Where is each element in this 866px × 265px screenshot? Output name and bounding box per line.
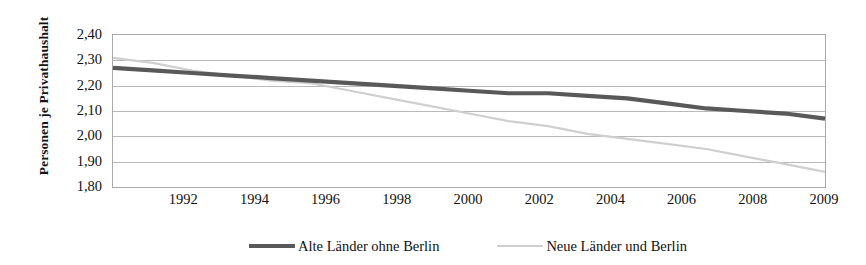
legend-color-swatch: [249, 244, 295, 248]
x-axis-tick-label: 2008: [738, 191, 767, 208]
y-axis-tick-labels: 2,402,302,202,102,001,901,80: [54, 34, 106, 186]
x-axis-tick-label: 2009: [810, 191, 839, 208]
x-axis-tick-label: 2000: [454, 191, 483, 208]
y-axis-tick-label: 1,90: [50, 154, 102, 169]
y-axis-tick-label: 1,80: [50, 179, 102, 194]
y-axis-tick-label: 2,10: [50, 103, 102, 118]
y-axis-tick-label: 2,20: [50, 78, 102, 93]
series-lines: [113, 35, 825, 187]
chart-screenshot: Personen je Privathaushalt 2,402,302,202…: [0, 0, 866, 265]
legend-item[interactable]: Alte Länder ohne Berlin: [249, 239, 439, 254]
legend-label: Alte Länder ohne Berlin: [298, 239, 439, 254]
x-axis-tick-labels: 1992199419961998200020022004200620082009: [112, 191, 824, 215]
x-axis-tick-label: 2004: [596, 191, 625, 208]
legend-label: Neue Länder und Berlin: [546, 239, 687, 254]
x-axis-tick-label: 1998: [382, 191, 411, 208]
chart-legend: Alte Länder ohne BerlinNeue Länder und B…: [112, 234, 824, 258]
x-axis-tick-label: 2002: [525, 191, 554, 208]
x-axis-tick-label: 1996: [311, 191, 340, 208]
y-axis-tick-label: 2,30: [50, 52, 102, 67]
x-axis-tick-label: 1992: [169, 191, 198, 208]
y-axis-tick-label: 2,00: [50, 128, 102, 143]
series-line: [113, 68, 825, 119]
x-axis-tick-label: 1994: [240, 191, 269, 208]
y-axis-tick-label: 2,40: [50, 27, 102, 42]
plot-area: [112, 34, 826, 188]
x-axis-tick-label: 2006: [667, 191, 696, 208]
legend-color-swatch: [497, 245, 543, 247]
legend-item[interactable]: Neue Länder und Berlin: [497, 239, 687, 254]
